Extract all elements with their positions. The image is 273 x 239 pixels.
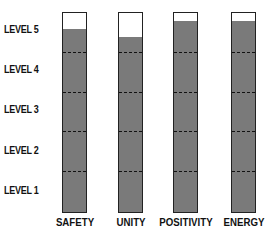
level-divider (63, 92, 86, 93)
level-divider (232, 131, 255, 132)
level-1-label: LEVEL 1 (4, 185, 49, 196)
level-divider (63, 52, 86, 53)
bar-fill (232, 21, 255, 212)
category-label-safety: SAFETY (44, 216, 106, 228)
level-4-label: LEVEL 4 (4, 64, 49, 75)
level-divider (174, 171, 197, 172)
level-divider (232, 92, 255, 93)
level-divider (232, 171, 255, 172)
category-label-energy: ENERGY (213, 216, 273, 228)
bar-energy (231, 12, 256, 213)
bar-fill (119, 37, 142, 212)
bar-fill (174, 21, 197, 212)
bar-fill (63, 29, 86, 212)
level-divider (119, 52, 142, 53)
level-divider (63, 131, 86, 132)
bar-positivity (173, 12, 198, 213)
level-2-label: LEVEL 2 (4, 145, 49, 156)
level-divider (174, 52, 197, 53)
level-divider (63, 171, 86, 172)
level-5-label: LEVEL 5 (4, 24, 49, 35)
level-divider (174, 131, 197, 132)
level-divider (119, 171, 142, 172)
bar-safety (62, 12, 87, 213)
category-label-positivity: POSITIVITY (155, 216, 217, 228)
level-divider (119, 131, 142, 132)
level-divider (174, 92, 197, 93)
level-divider (232, 52, 255, 53)
level-divider (119, 92, 142, 93)
bar-unity (118, 12, 143, 213)
level-3-label: LEVEL 3 (4, 104, 49, 115)
category-label-unity: UNITY (100, 216, 162, 228)
